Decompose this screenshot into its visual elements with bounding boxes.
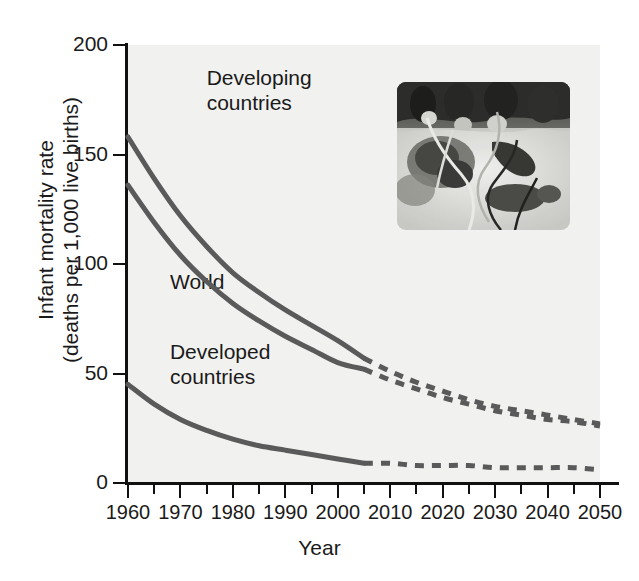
x-tick-1990 (284, 485, 286, 498)
x-tick-1960 (127, 485, 129, 498)
x-tick-label-2050: 2050 (570, 501, 630, 523)
x-tick-label-2040: 2040 (518, 501, 578, 523)
y-tick-200 (113, 44, 126, 46)
x-tick-label-1970: 1970 (150, 501, 210, 523)
x-tick-label-1990: 1990 (255, 501, 315, 523)
x-axis-title: Year (0, 536, 639, 560)
x-tick-2045 (573, 485, 575, 494)
x-tick-2020 (442, 485, 444, 498)
x-tick-2050 (599, 485, 601, 498)
y-tick-0 (113, 482, 126, 484)
series-label-world: World (170, 269, 224, 294)
x-tick-label-2030: 2030 (465, 501, 525, 523)
x-tick-2005 (363, 485, 365, 494)
series-label-developing-countries: Developing countries (207, 65, 312, 115)
x-tick-1980 (232, 485, 234, 498)
y-tick-150 (113, 154, 126, 156)
x-tick-label-1980: 1980 (203, 501, 263, 523)
y-tick-label-0: 0 (46, 471, 108, 492)
x-tick-label-2010: 2010 (360, 501, 420, 523)
infant-mortality-figure: 050100150200 196019701980199020002010202… (0, 0, 639, 581)
x-tick-1975 (206, 485, 208, 494)
x-axis-line (125, 482, 619, 485)
x-tick-2030 (494, 485, 496, 498)
x-tick-label-1960: 1960 (98, 501, 158, 523)
x-tick-2010 (389, 485, 391, 498)
x-tick-2015 (415, 485, 417, 494)
neonatal-infant-photo (397, 82, 570, 230)
x-tick-1970 (179, 485, 181, 498)
y-axis-title-line2: (deaths per 1,000 live births) (59, 97, 82, 363)
x-tick-1985 (258, 485, 260, 494)
x-tick-1965 (153, 485, 155, 494)
y-tick-50 (113, 373, 126, 375)
x-tick-label-2020: 2020 (413, 501, 473, 523)
y-axis-title-line1: Infant mortality rate (34, 140, 57, 320)
x-tick-2040 (547, 485, 549, 498)
series-label-developed-countries: Developed countries (170, 339, 270, 389)
x-tick-label-2000: 2000 (308, 501, 368, 523)
y-axis-title: Infant mortality rate (deaths per 1,000 … (33, 30, 83, 430)
x-tick-2035 (520, 485, 522, 494)
x-tick-2000 (337, 485, 339, 498)
x-tick-1995 (311, 485, 313, 494)
y-tick-100 (113, 263, 126, 265)
x-tick-2025 (468, 485, 470, 494)
neonatal-infant-photo-image (397, 82, 570, 230)
